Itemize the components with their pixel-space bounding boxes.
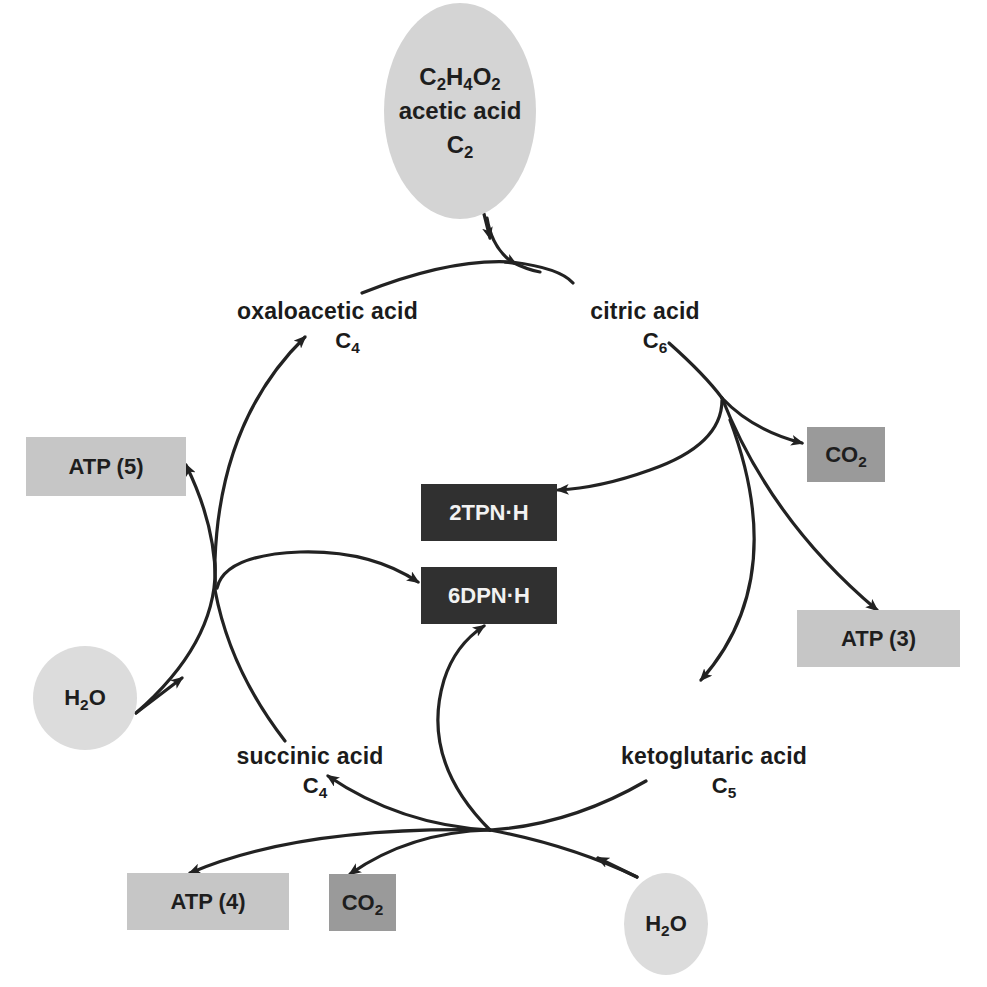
- arrow-to-co2-right: [722, 398, 802, 443]
- compound-carbon: C4: [212, 771, 408, 801]
- co2-bottom-label: CO2: [342, 890, 384, 916]
- oxaloacetic-acid-label: oxaloacetic acid C4: [205, 296, 450, 356]
- arrow-to-6dpnh-left: [217, 552, 418, 588]
- arrow-to-6dpnh-bottom: [438, 626, 490, 830]
- h2o-left-circle: H2O: [33, 646, 137, 750]
- arrow-succinic-up: [215, 590, 285, 741]
- arrow-oxaloacetic-to-citric: [362, 262, 573, 293]
- acetic-acid-formula: C2H4O2: [419, 60, 500, 94]
- succinic-acid-label: succinic acid C4: [212, 741, 408, 801]
- compound-carbon: C5: [583, 771, 845, 801]
- 2tpnh-label: 2TPN·H: [449, 500, 528, 526]
- h2o-bottom-label: H2O: [645, 911, 687, 937]
- arrow-to-co2-bottom: [350, 830, 490, 874]
- atp5-box: ATP (5): [26, 437, 186, 496]
- compound-carbon: C4: [205, 326, 450, 356]
- arrow-to-2tpnh: [558, 400, 722, 490]
- acetic-acid-carbon: C2: [447, 128, 474, 162]
- citric-acid-cycle-diagram: C2H4O2 acetic acid C2 oxaloacetic acid C…: [0, 0, 987, 987]
- atp4-label: ATP (4): [171, 889, 246, 915]
- co2-right-label: CO2: [825, 442, 867, 468]
- citric-acid-label: citric acid C6: [565, 296, 725, 356]
- compound-name: succinic acid: [212, 741, 408, 771]
- co2-bottom-box: CO2: [329, 874, 396, 931]
- 6dpnh-box: 6DPN·H: [421, 567, 557, 624]
- co2-right-box: CO2: [807, 427, 885, 482]
- arrow-to-ketoglutaric: [701, 420, 754, 680]
- compound-carbon: C6: [565, 326, 725, 356]
- acetic-acid-circle: C2H4O2 acetic acid C2: [384, 3, 536, 219]
- 6dpnh-label: 6DPN·H: [448, 583, 530, 609]
- h2o-bottom-circle: H2O: [624, 873, 708, 975]
- atp5-label: ATP (5): [69, 454, 144, 480]
- atp3-box: ATP (3): [797, 610, 960, 667]
- compound-name: citric acid: [565, 296, 725, 326]
- atp4-box: ATP (4): [127, 873, 289, 930]
- 2tpnh-box: 2TPN·H: [421, 484, 557, 541]
- arrow-to-atp5: [186, 465, 215, 590]
- atp3-label: ATP (3): [841, 626, 916, 652]
- compound-name: ketoglutaric acid: [583, 741, 845, 771]
- ketoglutaric-acid-label: ketoglutaric acid C5: [583, 741, 845, 801]
- arrow-to-oxaloacetic: [136, 337, 305, 713]
- acetic-acid-name: acetic acid: [399, 94, 522, 128]
- arrow-h2o-bottom-in: [490, 830, 637, 877]
- h2o-left-label: H2O: [64, 685, 106, 711]
- compound-name: oxaloacetic acid: [205, 296, 450, 326]
